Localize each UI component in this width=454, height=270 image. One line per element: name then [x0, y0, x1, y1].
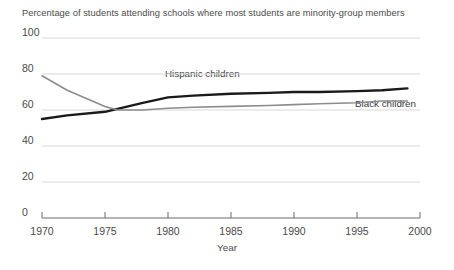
- gridlines: [42, 38, 420, 182]
- chart-plot-area: [0, 0, 454, 270]
- chart-container: Percentage of students attending schools…: [0, 0, 454, 270]
- x-axis-tick-marks: [42, 212, 420, 218]
- series-lines: [42, 76, 407, 119]
